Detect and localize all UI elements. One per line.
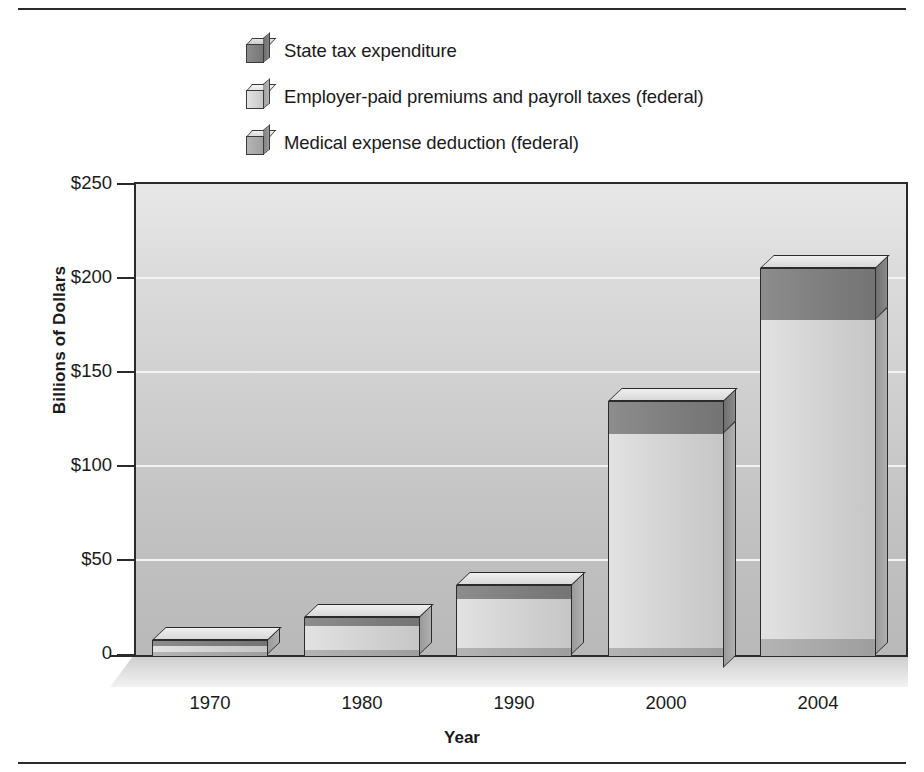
- bar-2004-top-face: [760, 255, 890, 268]
- x-tick-label-1990: 1990: [444, 692, 584, 714]
- y-tick-label-0: 0: [30, 642, 112, 664]
- bar-2004-seg-medical: [761, 639, 875, 656]
- x-tick-label-1970: 1970: [140, 692, 280, 714]
- bar-2000-seg-medical: [609, 648, 723, 656]
- bar-1990-seg-employer: [457, 599, 571, 648]
- x-axis-title: Year: [0, 728, 924, 748]
- bar-1970[interactable]: [152, 627, 268, 655]
- bar-1980-seg-medical: [305, 650, 419, 656]
- bar-1980-column: [304, 617, 420, 655]
- bar-2000-seg-employer: [609, 434, 723, 648]
- bar-1990[interactable]: [456, 572, 572, 655]
- y-axis-title: Billions of Dollars: [50, 225, 70, 455]
- bar-2000-top-face: [608, 388, 738, 401]
- chart-figure: State tax expenditure Employer-paid prem…: [0, 0, 924, 772]
- y-tick-mark-250: [117, 183, 134, 185]
- bar-1990-seg-state: [457, 586, 571, 599]
- x-tick-label-1980: 1980: [292, 692, 432, 714]
- plot-floor: [110, 655, 908, 687]
- x-tick-label-2000: 2000: [596, 692, 736, 714]
- bar-2004-seg-state: [761, 269, 875, 320]
- y-tick-mark-150: [117, 371, 134, 373]
- bar-1990-column: [456, 585, 572, 655]
- bar-2004-column: [760, 268, 876, 655]
- bar-1970-top-face: [152, 627, 282, 640]
- bar-2000-column: [608, 401, 724, 655]
- bar-2000-side-face: [723, 420, 736, 668]
- y-tick-mark-100: [117, 465, 134, 467]
- bar-1980-seg-employer: [305, 626, 419, 650]
- bar-2004-side-face: [875, 306, 888, 655]
- plot-area: Billions of Dollars $250 $200 $150 $100 …: [0, 0, 924, 772]
- bar-2004[interactable]: [760, 255, 876, 655]
- bar-1980-seg-state: [305, 618, 419, 626]
- y-tick-mark-200: [117, 277, 134, 279]
- y-tick-label-250: $250: [30, 172, 112, 194]
- bar-1980[interactable]: [304, 604, 420, 655]
- y-tick-label-100: $100: [30, 454, 112, 476]
- y-tick-label-150: $150: [30, 360, 112, 382]
- y-tick-label-50: $50: [30, 548, 112, 570]
- bar-2004-seg-employer: [761, 320, 875, 639]
- bar-2000-seg-state: [609, 402, 723, 434]
- x-tick-label-2004: 2004: [748, 692, 888, 714]
- bar-2000[interactable]: [608, 388, 724, 655]
- y-tick-mark-50: [117, 559, 134, 561]
- bar-1990-side-face: [571, 572, 584, 655]
- y-tick-label-200: $200: [30, 266, 112, 288]
- bar-1990-top-face: [456, 572, 586, 585]
- bar-1970-seg-medical: [153, 652, 267, 656]
- bar-1980-top-face: [304, 604, 434, 617]
- bar-1970-column: [152, 640, 268, 655]
- bar-1990-seg-medical: [457, 648, 571, 656]
